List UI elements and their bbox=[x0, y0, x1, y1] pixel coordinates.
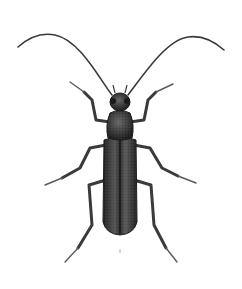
pronotum bbox=[107, 111, 133, 141]
beetle-illustration bbox=[0, 0, 242, 289]
left-front-leg bbox=[84, 92, 110, 122]
right-eye bbox=[124, 98, 130, 104]
right-hind-leg bbox=[134, 180, 166, 248]
head bbox=[110, 93, 130, 111]
antennae bbox=[18, 34, 224, 95]
left-eye bbox=[110, 98, 116, 104]
illustration-canvas bbox=[0, 0, 242, 289]
right-front-leg bbox=[130, 92, 156, 122]
elytra bbox=[103, 137, 137, 235]
left-hind-leg bbox=[78, 180, 106, 248]
left-antenna bbox=[18, 34, 112, 95]
mouthparts bbox=[113, 85, 127, 93]
right-middle-leg bbox=[134, 145, 178, 176]
left-middle-leg bbox=[62, 145, 106, 178]
right-antenna bbox=[128, 37, 224, 95]
